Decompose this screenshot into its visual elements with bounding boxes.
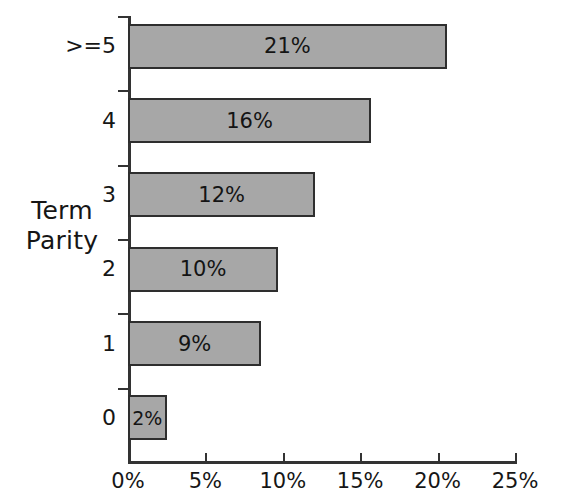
y-axis-tick-top xyxy=(118,16,128,18)
x-axis-tick xyxy=(360,453,362,464)
x-axis-tick-label: 25% xyxy=(480,468,550,494)
y-axis-tick-label: 0 xyxy=(102,405,116,431)
x-axis-tick xyxy=(128,453,130,464)
y-axis-tick xyxy=(118,165,128,167)
y-axis-tick xyxy=(118,239,128,241)
x-axis-tick-label: 5% xyxy=(170,468,240,494)
y-axis-tick-label: 3 xyxy=(102,182,116,208)
x-axis-tick xyxy=(515,453,517,464)
bar-value-label: 16% xyxy=(130,110,369,131)
bar-value-label: 2% xyxy=(130,407,165,428)
bar: 10% xyxy=(128,247,278,292)
y-axis-tick xyxy=(118,313,128,315)
bar-value-label: 10% xyxy=(130,259,276,280)
bar: 21% xyxy=(128,24,447,69)
bar-chart: Term Parity 0%5%10%15%20%25% 21%>=516%41… xyxy=(0,0,563,501)
x-axis-tick-label: 0% xyxy=(93,468,163,494)
y-axis-tick-label: >=5 xyxy=(65,33,116,59)
bar-value-label: 9% xyxy=(130,333,259,354)
bar: 12% xyxy=(128,172,315,217)
y-axis-tick-label: 4 xyxy=(102,108,116,134)
x-axis-tick xyxy=(438,453,440,464)
bar: 9% xyxy=(128,321,261,366)
x-axis-tick-label: 15% xyxy=(325,468,395,494)
bar: 16% xyxy=(128,98,371,143)
y-axis-tick-label: 1 xyxy=(102,331,116,357)
y-axis-tick xyxy=(118,388,128,390)
bar-value-label: 21% xyxy=(130,36,445,57)
plot-area xyxy=(128,16,515,462)
bar-value-label: 12% xyxy=(130,184,313,205)
x-axis-tick xyxy=(205,453,207,464)
y-axis-tick-label: 2 xyxy=(102,256,116,282)
x-axis-tick-label: 10% xyxy=(248,468,318,494)
bar: 2% xyxy=(128,395,167,440)
y-axis-tick xyxy=(118,90,128,92)
x-axis-tick-label: 20% xyxy=(403,468,473,494)
x-axis-tick xyxy=(283,453,285,464)
